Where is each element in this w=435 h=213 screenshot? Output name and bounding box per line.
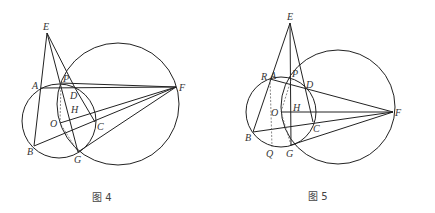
label-a: A xyxy=(31,80,39,91)
line-pf xyxy=(61,83,176,87)
line-gf xyxy=(291,112,393,145)
caption-fig5: 图 5 xyxy=(308,191,328,202)
figure-4: E A P D F O H C B G 图 4 xyxy=(22,21,186,203)
label-o: O xyxy=(271,107,278,118)
label-p: P xyxy=(62,73,69,84)
label-o: O xyxy=(50,118,57,129)
label-c: C xyxy=(313,123,320,134)
label-b: B xyxy=(245,132,251,143)
figure-5: E R A P D F O H C B G Q 图 5 xyxy=(245,11,402,202)
label-f: F xyxy=(394,107,402,118)
label-b: B xyxy=(27,146,33,157)
line-bf xyxy=(34,87,176,146)
label-d: D xyxy=(305,79,314,90)
label-p: P xyxy=(291,68,298,79)
line-af xyxy=(270,79,393,112)
label-c: C xyxy=(97,121,104,132)
label-g: G xyxy=(286,148,293,159)
label-e: E xyxy=(286,11,293,22)
label-d: D xyxy=(69,90,78,101)
caption-fig4: 图 4 xyxy=(92,192,112,203)
label-f: F xyxy=(178,82,186,93)
label-g: G xyxy=(74,154,81,165)
line-gf xyxy=(78,87,176,152)
label-a: A xyxy=(269,70,277,81)
line-ed xyxy=(47,33,75,88)
label-q: Q xyxy=(266,148,274,159)
geometry-figures: E A P D F O H C B G 图 4 E R A P D F O H … xyxy=(0,0,435,213)
label-h: H xyxy=(70,104,79,115)
label-r: R xyxy=(260,71,267,82)
label-e: E xyxy=(42,21,49,32)
label-h: H xyxy=(292,102,301,113)
